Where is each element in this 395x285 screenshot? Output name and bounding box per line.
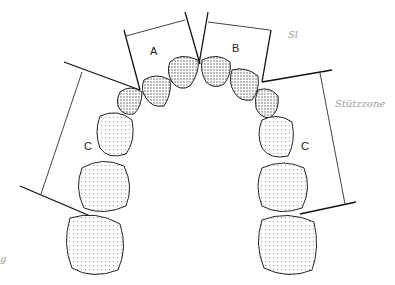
tooth-right-first-premolar: [259, 116, 293, 157]
tooth-right-central-incisor: [202, 56, 231, 86]
label-b: B: [232, 42, 239, 54]
tooth-left-canine: [117, 88, 142, 114]
label-c-left: C: [84, 140, 92, 152]
dental-arch-diagram: A B C C Sl Stützzone g: [0, 0, 395, 285]
tooth-left-first-premolar: [97, 113, 133, 156]
label-a: A: [150, 45, 158, 57]
margin-mark: g: [0, 253, 6, 264]
tooth-right-canine: [255, 89, 278, 118]
tooth-left-second-molar: [66, 215, 123, 274]
tooth-left-lateral-incisor: [142, 76, 170, 106]
tooth-right-first-molar: [258, 163, 308, 212]
tooth-left-central-incisor: [168, 56, 198, 88]
label-c-right: C: [301, 140, 309, 152]
tooth-left-first-molar: [78, 161, 129, 211]
tooth-right-second-molar: [258, 215, 316, 274]
tooth-right-lateral-incisor: [230, 69, 258, 100]
teeth: [66, 56, 316, 274]
handwritten-note-support-zone: Stützzone: [335, 98, 385, 109]
handwritten-note-top: Sl: [288, 29, 298, 40]
